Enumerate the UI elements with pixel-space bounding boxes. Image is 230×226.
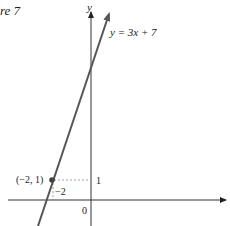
line-graph: re 7 y y = 3x + 7 (−2, 1) 1 −2 0	[0, 0, 230, 226]
origin-label: 0	[82, 205, 87, 216]
point-label: (−2, 1)	[16, 174, 43, 186]
line-equation-label: y = 3x + 7	[109, 26, 157, 38]
graph-line	[38, 14, 109, 226]
x-offset-label: −2	[55, 186, 66, 197]
y-axis-label: y	[86, 1, 92, 13]
figure-caption: re 7	[0, 3, 21, 18]
point-marker	[49, 177, 55, 183]
y-tick-label: 1	[96, 175, 101, 186]
